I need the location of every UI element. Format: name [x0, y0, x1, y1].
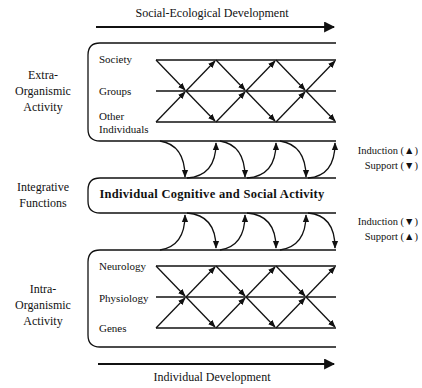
level-individuals: Individuals: [99, 123, 149, 136]
legend-lower-induction: Induction (▼): [358, 214, 418, 229]
level-genes: Genes: [99, 322, 127, 335]
legend-upper-induction: Induction (▲): [358, 143, 418, 158]
center-label: Individual Cognitive and Social Activity: [88, 187, 336, 202]
legend-upper-support: Support (▼): [358, 158, 418, 173]
level-neurology: Neurology: [99, 260, 146, 273]
level-groups: Groups: [99, 85, 131, 98]
top-axis-label: Social-Ecological Development: [88, 6, 336, 21]
legend-upper: Induction (▲) Support (▼): [358, 143, 418, 173]
intra-organismic-label: Intra- Organismic Activity: [0, 281, 86, 329]
bottom-axis-label: Individual Development: [88, 370, 336, 385]
extra-organismic-label: Extra- Organismic Activity: [0, 67, 86, 115]
level-physiology: Physiology: [99, 292, 149, 305]
legend-lower: Induction (▼) Support (▲): [358, 214, 418, 244]
level-other: Other: [99, 110, 124, 123]
legend-lower-support: Support (▲): [358, 229, 418, 244]
upper-curved-arrows: [160, 141, 335, 178]
integrative-functions-label: Integrative Functions: [0, 179, 86, 211]
lower-curved-arrows: [160, 213, 335, 250]
level-society: Society: [99, 53, 132, 66]
